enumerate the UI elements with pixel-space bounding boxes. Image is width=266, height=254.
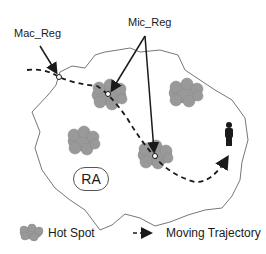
mic-reg-arrow-2 bbox=[145, 36, 154, 151]
mic-reg-point-1 bbox=[106, 92, 111, 97]
mac-reg-label: Mac_Reg bbox=[14, 27, 61, 39]
mic-reg-arrow-1 bbox=[112, 36, 145, 90]
mac-reg-point bbox=[57, 75, 62, 80]
mic-reg-point-2 bbox=[153, 154, 158, 159]
region-boundary bbox=[32, 48, 248, 230]
person-icon bbox=[225, 122, 233, 146]
mic-reg-label: Mic_Reg bbox=[128, 16, 171, 28]
hot-spot-3 bbox=[68, 126, 100, 155]
legend-hot-spot-icon bbox=[20, 224, 43, 241]
legend-trajectory-label: Moving Trajectory bbox=[166, 226, 261, 240]
mac-reg-arrow bbox=[40, 46, 56, 72]
ra-label: RA bbox=[73, 167, 109, 191]
hot-spot-2 bbox=[169, 78, 203, 107]
legend-hot-spot-label: Hot Spot bbox=[48, 226, 95, 240]
